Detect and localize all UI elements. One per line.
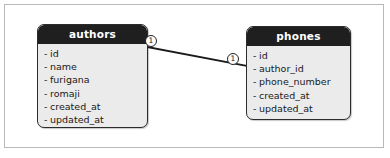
- entity-field-row[interactable]: -author_id: [253, 62, 350, 75]
- field-label: author_id: [259, 63, 304, 74]
- entity-table-authors[interactable]: authors -id -name -furigana -romaji -cre…: [37, 24, 148, 128]
- entity-field-row[interactable]: -created_at: [253, 89, 350, 102]
- entity-table-phones[interactable]: phones -id -author_id -phone_number -cre…: [246, 26, 351, 120]
- entity-field-list-phones: -id -author_id -phone_number -created_at…: [247, 46, 350, 119]
- entity-field-list-authors: -id -name -furigana -romaji -created_at …: [38, 44, 147, 128]
- er-diagram-canvas: authors -id -name -furigana -romaji -cre…: [0, 0, 390, 158]
- entity-field-row[interactable]: -id: [253, 49, 350, 62]
- field-label: name: [50, 61, 77, 72]
- field-label: id: [259, 50, 268, 61]
- field-label: updated_at: [50, 114, 104, 125]
- entity-field-row[interactable]: -furigana: [44, 73, 147, 86]
- entity-field-row[interactable]: -created_at: [44, 100, 147, 113]
- entity-header-authors: authors: [38, 25, 147, 44]
- field-label: furigana: [50, 74, 90, 85]
- entity-field-row[interactable]: -id: [44, 47, 147, 60]
- cardinality-marker-authors-side: 1: [145, 35, 157, 47]
- field-label: updated_at: [259, 103, 313, 114]
- entity-field-row[interactable]: -updated_at: [253, 102, 350, 115]
- field-label: id: [50, 48, 59, 59]
- entity-field-row[interactable]: -romaji: [44, 87, 147, 100]
- field-label: created_at: [50, 101, 100, 112]
- field-label: created_at: [259, 90, 309, 101]
- entity-field-row[interactable]: -phone_number: [253, 75, 350, 88]
- entity-header-phones: phones: [247, 27, 350, 46]
- cardinality-marker-phones-side: 1: [227, 53, 239, 65]
- field-label: romaji: [50, 88, 80, 99]
- field-label: phone_number: [259, 76, 331, 87]
- entity-field-row[interactable]: -name: [44, 60, 147, 73]
- entity-field-row[interactable]: -updated_at: [44, 113, 147, 126]
